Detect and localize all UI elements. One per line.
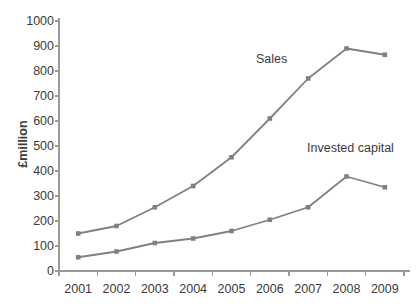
x-axis-tick-label: 2007 <box>289 283 327 296</box>
x-axis-tick-label: 2009 <box>366 283 404 296</box>
x-axis-tick-label: 2008 <box>327 283 365 296</box>
x-axis-tick-label: 2006 <box>251 283 289 296</box>
x-axis-tick-label: 2001 <box>59 283 97 296</box>
x-axis-tick-label: 2002 <box>97 283 135 296</box>
x-axis-tick-label: 2003 <box>136 283 174 296</box>
series-label-sales: Sales <box>256 52 287 66</box>
x-axis-tick-label: 2004 <box>174 283 212 296</box>
series-label-invested-capital: Invested capital <box>307 141 394 155</box>
y-axis-title: £million <box>16 109 30 179</box>
x-axis-tick-label: 2005 <box>212 283 250 296</box>
line-chart: 01002003004005006007008009001000 2001200… <box>0 0 417 306</box>
